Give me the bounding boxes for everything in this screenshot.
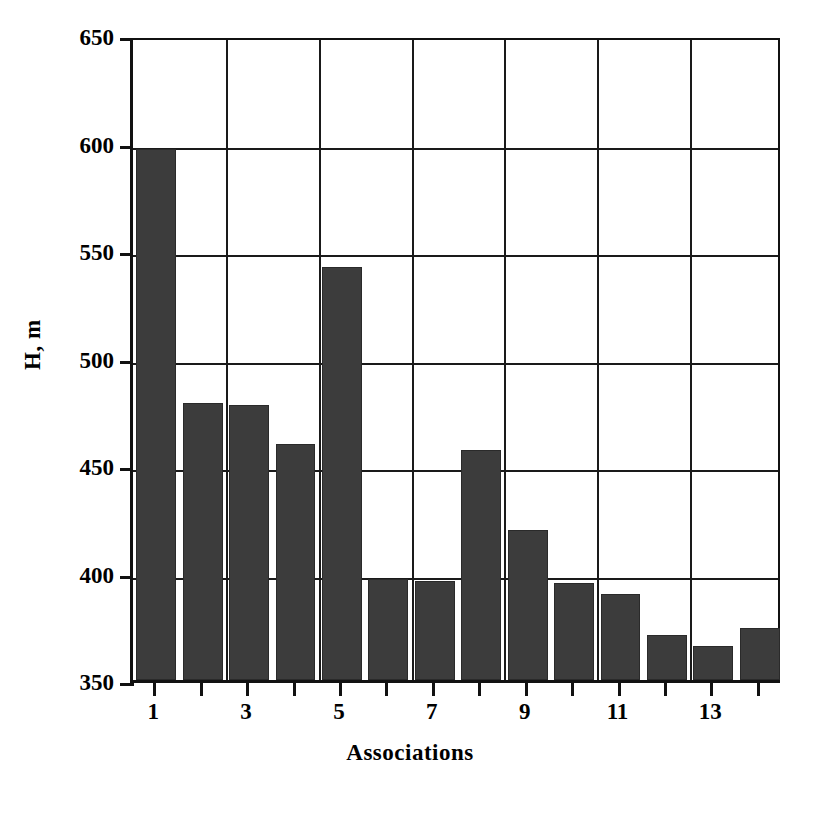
x-axis-tick <box>571 683 574 696</box>
y-axis-tick-label: 650 <box>54 26 114 49</box>
y-axis-tick-label: 550 <box>54 241 114 264</box>
bar <box>183 403 223 680</box>
x-axis-tick-label: 9 <box>505 700 545 723</box>
x-axis-tick-label: 5 <box>319 700 359 723</box>
x-axis-tick <box>525 683 528 696</box>
x-axis-tick-label: 11 <box>598 700 638 723</box>
bar <box>229 405 269 680</box>
x-axis-tick-label: 13 <box>690 700 730 723</box>
x-axis-tick <box>618 683 621 696</box>
bar <box>508 530 548 681</box>
y-axis-tick-label: 350 <box>54 671 114 694</box>
bar <box>322 267 362 680</box>
x-axis-tick <box>664 683 667 696</box>
x-axis-tick <box>478 683 481 696</box>
plot-area <box>130 38 780 683</box>
x-axis-tick <box>293 683 296 696</box>
bar <box>554 583 594 680</box>
x-axis-tick <box>200 683 203 696</box>
bar <box>461 450 501 680</box>
x-axis-tick <box>246 683 249 696</box>
bar <box>601 594 641 680</box>
y-axis-tick-labels: 350400450500550600650 <box>46 0 114 813</box>
bar <box>136 149 176 680</box>
x-axis-tick <box>153 683 156 696</box>
x-axis-tick <box>757 683 760 696</box>
bar <box>740 628 780 680</box>
bar <box>415 581 455 680</box>
x-axis-tick <box>385 683 388 696</box>
bar <box>368 579 408 680</box>
chart-page: H, m 350400450500550600650 135791113 Ass… <box>0 0 820 813</box>
bar <box>276 444 316 681</box>
x-axis-tick <box>339 683 342 696</box>
x-axis-tick-label: 1 <box>133 700 173 723</box>
bar <box>647 635 687 680</box>
x-axis-tick-label: 7 <box>412 700 452 723</box>
y-axis-tick-label: 600 <box>54 134 114 157</box>
bar-series <box>133 40 778 680</box>
x-axis-tick <box>710 683 713 696</box>
bar <box>693 646 733 680</box>
y-axis-tick <box>120 683 134 686</box>
x-axis-tick-label: 3 <box>226 700 266 723</box>
y-axis-title: H, m <box>20 319 46 370</box>
x-axis-title: Associations <box>0 740 820 766</box>
y-axis-tick-label: 500 <box>54 349 114 372</box>
y-axis-tick-label: 400 <box>54 564 114 587</box>
x-axis-tick <box>432 683 435 696</box>
y-axis-tick-label: 450 <box>54 456 114 479</box>
